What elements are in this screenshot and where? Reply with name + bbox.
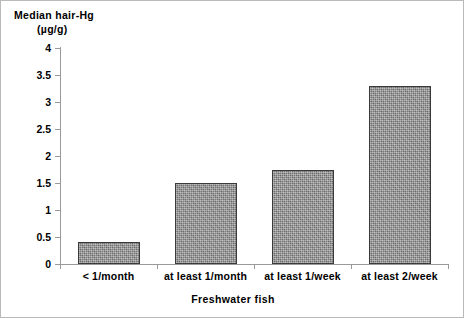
y-axis-tick-label: 1 (7, 204, 51, 216)
y-axis-tick-label: 2.5 (7, 123, 51, 135)
x-axis-category-label: < 1/month (60, 270, 157, 282)
bar (78, 242, 140, 264)
y-axis-tick-label: 0.5 (7, 231, 51, 243)
x-axis-tick (351, 264, 352, 269)
x-axis-tick (60, 264, 61, 269)
bar (272, 170, 334, 265)
plot-area (60, 48, 448, 264)
x-axis-category-label: at least 2/week (351, 270, 448, 282)
x-axis-title: Freshwater fish (1, 293, 464, 305)
bar-chart-figure: Median hair-Hg (µg/g) 00.511.522.533.54 … (0, 0, 464, 318)
x-axis-tick (157, 264, 158, 269)
x-axis-tick (254, 264, 255, 269)
y-axis-title-line-1: Median hair-Hg (14, 9, 94, 21)
x-axis-tick (448, 264, 449, 269)
bar (369, 86, 431, 264)
y-axis-tick-label: 1.5 (7, 177, 51, 189)
y-axis-tick-label: 3.5 (7, 69, 51, 81)
y-axis-tick-label: 2 (7, 150, 51, 162)
x-axis-category-label: at least 1/week (254, 270, 351, 282)
y-axis-tick-label: 3 (7, 96, 51, 108)
x-axis-category-label: at least 1/month (157, 270, 254, 282)
y-axis-title-line-2: (µg/g) (37, 23, 68, 35)
y-axis-tick-label: 4 (7, 42, 51, 54)
bar (175, 183, 237, 264)
y-axis-tick-label: 0 (7, 258, 51, 270)
